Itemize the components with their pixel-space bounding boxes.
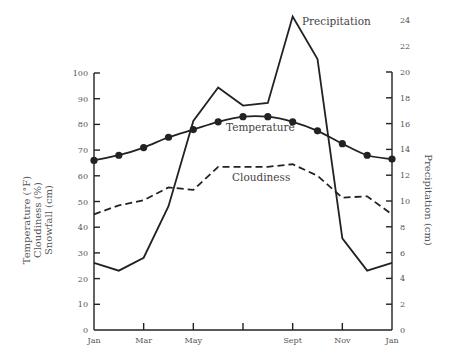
precipitation-series	[94, 17, 392, 271]
precipitation-label: Precipitation	[302, 15, 371, 27]
left-axis-title-temperature: Temperature (°F)	[21, 176, 32, 265]
left-axis-title-cloudiness: Cloudiness (%)	[32, 182, 43, 258]
right-tick-label: 20	[400, 68, 410, 77]
temperature-marker	[388, 155, 395, 162]
left-tick-label: 80	[78, 120, 88, 129]
temperature-marker	[314, 127, 321, 134]
climate-chart: 0102030405060708090100 02468101214161820…	[0, 0, 452, 360]
left-y-axis-ticks: 0102030405060708090100	[73, 69, 100, 335]
left-tick-label: 10	[78, 300, 88, 309]
temperature-marker	[215, 118, 222, 125]
right-axis-title: Precipitation (cm)	[423, 154, 434, 246]
x-tick-label: Jan	[384, 336, 398, 345]
right-tick-label: 4	[400, 274, 405, 283]
temperature-marker	[140, 144, 147, 151]
right-tick-label: 6	[400, 249, 405, 258]
x-tick-label: May	[185, 336, 203, 345]
left-tick-label: 20	[78, 275, 88, 284]
precipitation-line	[94, 17, 392, 271]
right-tick-label: 22	[400, 42, 410, 51]
temperature-marker	[90, 157, 97, 164]
temperature-marker	[115, 152, 122, 159]
right-tick-label: 14	[400, 145, 410, 154]
left-tick-label: 60	[78, 172, 88, 181]
temperature-marker	[190, 126, 197, 133]
right-tick-label: 18	[400, 94, 410, 103]
left-tick-label: 100	[73, 69, 88, 78]
left-tick-label: 30	[78, 249, 88, 258]
right-y-axis-ticks: 024681012141618202224	[386, 16, 410, 335]
temperature-marker	[239, 113, 246, 120]
temperature-marker	[364, 152, 371, 159]
right-tick-label: 8	[400, 223, 405, 232]
right-axis-title-precipitation: Precipitation (cm)	[423, 154, 434, 246]
temperature-marker	[264, 113, 271, 120]
left-tick-label: 50	[78, 198, 88, 207]
left-axis-title: Temperature (°F) Cloudiness (%) Snowfall…	[21, 176, 54, 265]
x-tick-label: Nov	[334, 336, 351, 345]
left-axis-title-snowfall: Snowfall (cm)	[43, 185, 54, 255]
left-tick-label: 0	[83, 326, 88, 335]
right-tick-label: 2	[400, 300, 405, 309]
temperature-marker	[339, 140, 346, 147]
left-tick-label: 90	[78, 95, 88, 104]
cloudiness-label: Cloudiness	[232, 171, 290, 183]
left-tick-label: 70	[78, 146, 88, 155]
right-tick-label: 12	[400, 171, 410, 180]
right-tick-label: 24	[400, 16, 410, 25]
right-tick-label: 10	[400, 197, 410, 206]
x-axis-ticks: JanMarMaySeptNovJan	[86, 323, 398, 345]
right-tick-label: 16	[400, 120, 410, 129]
temperature-label: Temperature	[226, 121, 295, 133]
temperature-marker	[165, 134, 172, 141]
x-tick-label: Sept	[283, 336, 302, 345]
x-tick-label: Jan	[86, 336, 100, 345]
x-tick-label: Mar	[135, 336, 152, 345]
left-tick-label: 40	[78, 223, 88, 232]
right-tick-label: 0	[400, 326, 405, 335]
